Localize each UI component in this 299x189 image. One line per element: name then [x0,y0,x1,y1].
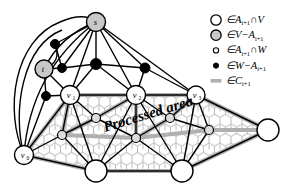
graph-node-w5[interactable] [205,126,214,135]
node-circle[interactable] [205,126,214,135]
legend: ∈Ai+1∩V∈V−Ai+1∈Ai+1∩W∈W−Ai+1∈Ci+1 [211,14,268,87]
node-circle[interactable] [42,92,51,101]
graph-node-k5[interactable] [42,92,51,101]
graph-node-k1[interactable] [51,40,60,49]
legend-item-1: ∈V−Ai+1 [211,29,264,41]
graph-node-v1[interactable]: v1 [61,86,80,105]
legend-item-2: ∈Ai+1∩W [213,44,267,56]
node-circle[interactable] [85,160,107,182]
legend-label: ∈Ai+1∩V [226,14,266,26]
graph-node-w3[interactable] [132,134,141,143]
legend-label: ∈W−Ai+1 [226,60,266,72]
legend-label: ∈Ai+1∩W [226,44,268,56]
legend-marker-large-open-circle [211,15,221,25]
graph-node-k4[interactable] [140,63,150,73]
node-circle[interactable] [92,114,101,123]
graph-node-b3[interactable] [257,119,279,141]
legend-marker-small-filled-circle [213,63,218,68]
legend-item-4: ∈Ci+1 [211,75,251,87]
graph-node-b1[interactable] [85,160,107,182]
graph-node-k2[interactable] [58,64,67,73]
node-circle[interactable] [58,64,67,73]
figure-root: stv1v2v3v0 Processed area ∈Ai+1∩V∈V−Ai+1… [0,0,299,189]
node-label-subscript: 0 [26,155,29,161]
node-label-subscript: 1 [72,95,75,101]
node-label: v [193,90,197,100]
cut-edge [62,135,136,138]
node-label: v [133,90,137,100]
graph-node-s[interactable]: s [87,13,106,32]
node-circle[interactable] [58,131,67,140]
graph-edge [96,22,136,95]
legend-label: ∈V−Ai+1 [226,29,264,41]
node-label-subscript: 2 [138,95,141,101]
node-circle[interactable] [132,134,141,143]
legend-marker-large-gray-circle [211,30,221,40]
graph-node-w1[interactable] [58,131,67,140]
node-label: v [21,150,25,160]
legend-label: ∈Ci+1 [226,75,251,87]
graph-node-v2[interactable]: v2 [127,86,146,105]
graph-diagram: stv1v2v3v0 Processed area ∈Ai+1∩V∈V−Ai+1… [0,0,299,189]
graph-edge [96,22,196,95]
node-label: v [67,90,71,100]
node-circle[interactable] [51,40,60,49]
node-circle[interactable] [171,160,193,182]
node-circle[interactable] [91,59,102,70]
legend-item-3: ∈W−Ai+1 [213,60,265,72]
node-circle[interactable] [257,119,279,141]
legend-marker-small-open-circle [213,48,218,53]
graph-node-b2[interactable] [171,160,193,182]
graph-node-t[interactable]: t [35,60,53,78]
node-circle[interactable] [140,63,150,73]
node-label-subscript: 3 [198,95,201,101]
graph-node-v0[interactable]: v0 [15,146,34,165]
legend-item-0: ∈Ai+1∩V [211,14,266,26]
graph-node-w2[interactable] [92,114,101,123]
graph-node-k3[interactable] [91,59,102,70]
